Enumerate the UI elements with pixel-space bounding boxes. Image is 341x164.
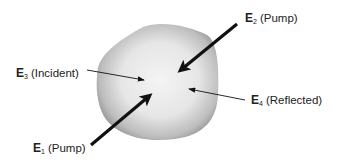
e4-subscript: 4 [259, 100, 263, 107]
e4-role: (Reflected) [266, 94, 322, 106]
e1-symbol: E [33, 141, 41, 155]
e2-role: (Pump) [260, 12, 298, 24]
e2-subscript: 2 [253, 18, 257, 25]
e3-symbol: E [16, 66, 24, 80]
label-e1-pump: E1(Pump) [33, 142, 86, 155]
e1-role: (Pump) [48, 142, 86, 154]
label-e3-incident: E3(Incident) [16, 67, 79, 80]
label-e2-pump: E2(Pump) [245, 12, 298, 25]
e1-subscript: 1 [41, 148, 45, 155]
label-e4-reflected: E4(Reflected) [251, 94, 322, 107]
e4-symbol: E [251, 93, 259, 107]
e3-role: (Incident) [31, 67, 79, 79]
nonlinear-medium-blob [97, 24, 219, 140]
e2-symbol: E [245, 11, 253, 25]
e3-subscript: 3 [24, 73, 28, 80]
